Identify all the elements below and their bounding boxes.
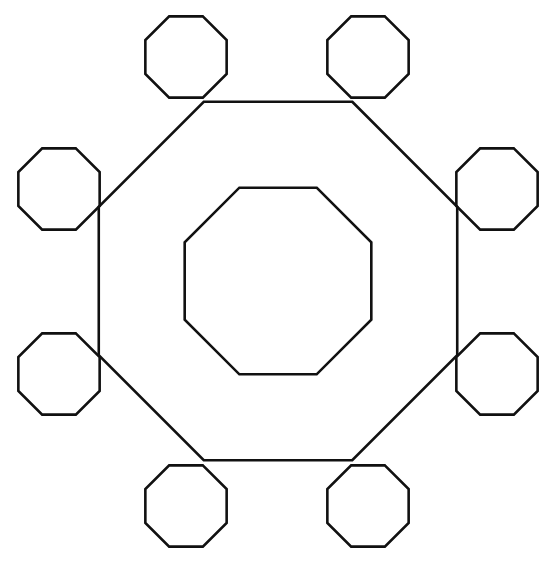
octagon-figure-svg — [0, 0, 558, 567]
figure-background — [0, 0, 558, 567]
figure-canvas-root — [0, 0, 558, 567]
